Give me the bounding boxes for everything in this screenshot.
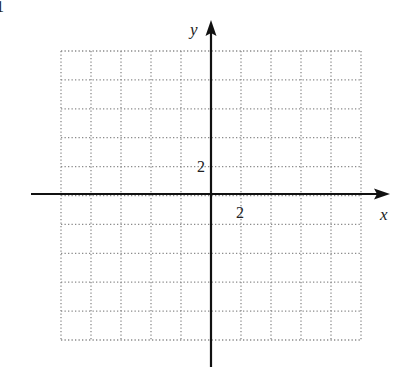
x-axis-label: x (379, 205, 388, 224)
y-axis-label: y (188, 20, 198, 39)
y-tick-label: 2 (197, 158, 205, 175)
figure-number: 1 (0, 0, 4, 15)
coordinate-plane: x y 2 2 1 (0, 0, 413, 367)
x-tick-label: 2 (236, 204, 244, 221)
